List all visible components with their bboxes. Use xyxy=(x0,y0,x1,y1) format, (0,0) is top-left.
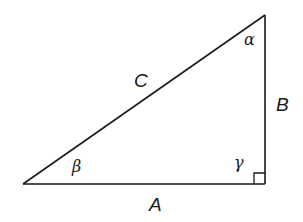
triangle xyxy=(23,15,265,184)
label-a: A xyxy=(148,194,162,215)
hypotenuse-c xyxy=(23,15,265,184)
right-triangle-diagram: C B A α β γ xyxy=(0,0,303,222)
label-alpha: α xyxy=(244,30,255,49)
label-b: B xyxy=(276,94,289,115)
label-beta: β xyxy=(71,157,81,176)
label-gamma: γ xyxy=(234,153,244,172)
right-angle-marker xyxy=(254,173,265,184)
label-c: C xyxy=(134,70,148,91)
